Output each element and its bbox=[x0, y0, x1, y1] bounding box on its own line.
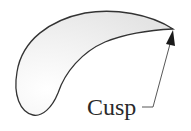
arrowhead-icon bbox=[166, 30, 175, 46]
cusp-label: Cusp bbox=[87, 95, 136, 119]
leader-line bbox=[142, 44, 170, 107]
cusp-diagram: Cusp bbox=[0, 0, 191, 131]
